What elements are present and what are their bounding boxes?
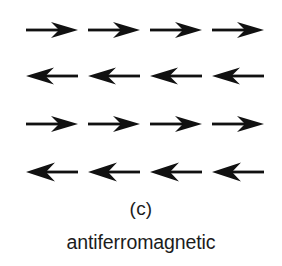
- spin-row: [26, 63, 264, 89]
- arrow-left-icon: [212, 159, 264, 185]
- spin-row: [26, 17, 264, 43]
- panel-letter: (c): [0, 198, 282, 220]
- arrow-left-icon: [150, 159, 202, 185]
- spin-row: [26, 111, 264, 137]
- arrow-left-icon: [150, 63, 202, 89]
- arrow-left-icon: [88, 159, 140, 185]
- arrow-right-icon: [212, 111, 264, 137]
- arrow-right-icon: [26, 17, 78, 43]
- arrow-left-icon: [26, 63, 78, 89]
- arrow-right-icon: [88, 111, 140, 137]
- arrow-right-icon: [212, 17, 264, 43]
- spin-lattice: [0, 0, 282, 196]
- figure-caption: antiferromagnetic: [0, 230, 282, 254]
- arrow-right-icon: [88, 17, 140, 43]
- arrow-right-icon: [150, 17, 202, 43]
- arrow-right-icon: [26, 111, 78, 137]
- antiferromagnetic-figure: (c) antiferromagnetic: [0, 0, 282, 266]
- spin-row: [26, 159, 264, 185]
- arrow-right-icon: [150, 111, 202, 137]
- arrow-left-icon: [212, 63, 264, 89]
- arrow-left-icon: [88, 63, 140, 89]
- arrow-left-icon: [26, 159, 78, 185]
